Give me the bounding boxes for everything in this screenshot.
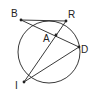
point-i	[23, 81, 26, 84]
label-d: D	[81, 44, 88, 55]
segment-ri	[24, 21, 66, 82]
point-b	[20, 19, 23, 22]
circle-diagram: B R A D I	[0, 0, 94, 99]
label-i: I	[15, 80, 18, 91]
label-b: B	[11, 8, 18, 19]
point-r	[65, 20, 68, 23]
segment-id	[24, 47, 79, 82]
label-r: R	[68, 9, 75, 20]
segment-bd	[21, 20, 79, 47]
point-a	[55, 34, 58, 37]
segment-br	[21, 20, 66, 21]
point-d	[78, 46, 81, 49]
label-a: A	[43, 33, 50, 44]
